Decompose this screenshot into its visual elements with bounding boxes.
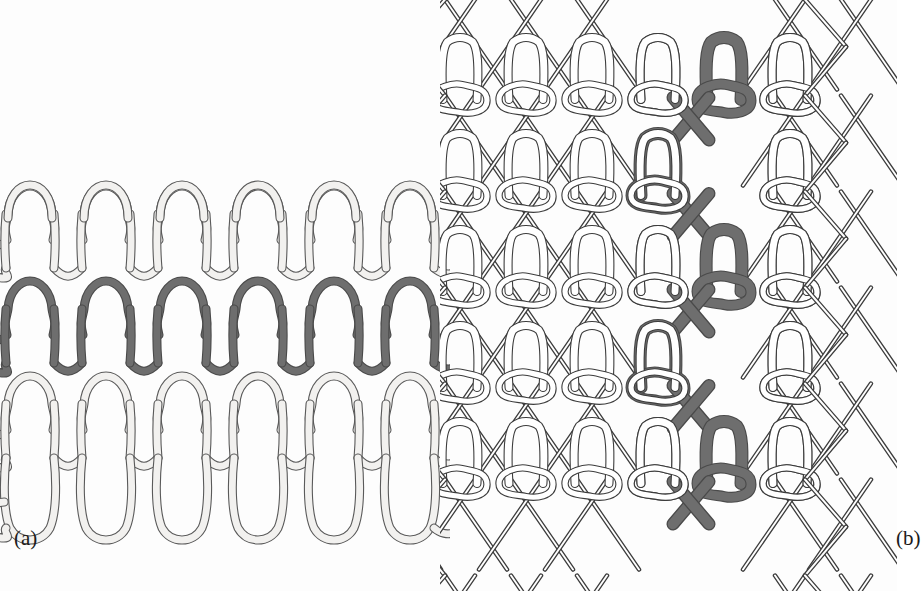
light-weft-course-loops-2 <box>5 376 434 430</box>
dark-weft-course-loops-1 <box>5 281 434 335</box>
dark-weft-course-sinkers-1 <box>54 363 386 371</box>
warp-dark-yarn-layer <box>631 38 817 525</box>
panel-weft-knit: (a) <box>0 0 450 591</box>
panel-warp-knit: (b) <box>440 0 897 591</box>
panel-a-label: (a) <box>14 526 37 551</box>
light-leg-front-2 <box>5 404 435 458</box>
light-weft-course-sinkers-0 <box>54 268 386 276</box>
weft-front-layer <box>0 185 450 540</box>
light-weft-course-loops-0 <box>5 186 434 240</box>
panel-b-label: (b) <box>896 526 921 551</box>
weft-back-layer <box>5 186 434 430</box>
light-leg-front-0 <box>5 214 435 268</box>
light-weft-top-heads <box>8 185 432 218</box>
warp-underlap <box>841 0 897 90</box>
warp-knit-diagram <box>440 0 897 591</box>
dark-leg-front-1 <box>5 309 435 363</box>
weft-knit-diagram <box>0 0 450 591</box>
light-weft-course-sinkers-2 <box>54 458 386 466</box>
